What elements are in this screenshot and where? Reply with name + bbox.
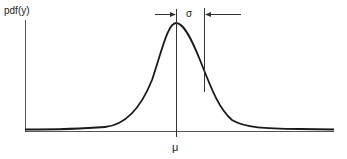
pdf-curve bbox=[25, 23, 334, 130]
arrowhead-right-icon bbox=[170, 12, 176, 17]
gaussian-diagram bbox=[0, 0, 347, 159]
arrowhead-left-icon bbox=[205, 12, 211, 17]
y-axis-label: pdf(y) bbox=[4, 5, 30, 16]
sigma-label: σ bbox=[186, 8, 192, 19]
mu-label: μ bbox=[172, 141, 178, 153]
